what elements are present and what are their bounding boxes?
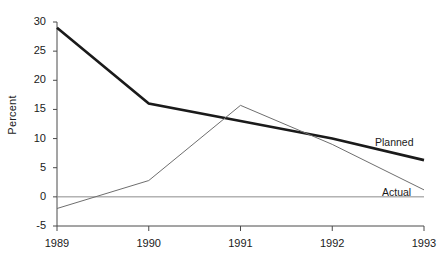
series-line-planned — [57, 28, 424, 160]
line-chart: Percent -5051015202530 19891990199119921… — [0, 0, 438, 264]
series-label-planned: Planned — [375, 136, 414, 148]
plot-area — [0, 0, 438, 264]
series-label-actual: Actual — [382, 186, 411, 198]
